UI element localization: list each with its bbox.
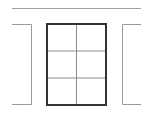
right-partial-page [123, 25, 142, 105]
diagram-canvas [0, 0, 152, 117]
left-partial-page [12, 25, 32, 105]
page-grid-diagram [0, 0, 152, 117]
center-page-grid-lines [47, 24, 106, 105]
